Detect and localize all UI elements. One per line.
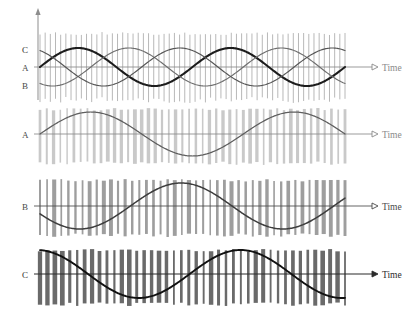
panel-combined-time-label: Time [382, 63, 402, 73]
pwm-bars-c [40, 249, 345, 306]
amplitude-axis-arrowhead [35, 8, 40, 15]
panel-b-label-b: B [22, 202, 28, 212]
panel-b-time-label: Time [382, 202, 402, 212]
panel-a-time-axis: Time [34, 130, 402, 140]
panel-combined-label-c: C [22, 45, 28, 55]
panel-c-time-label: Time [382, 270, 402, 280]
panel-a-time-label: Time [382, 130, 402, 140]
diagram-canvas: TimeCABTimeATimeBTimeC [0, 0, 418, 324]
panel-a-label-a: A [22, 130, 29, 140]
panel-c: TimeC [22, 249, 402, 306]
panel-c-label-c: C [22, 270, 28, 280]
panel-b-time-arrowhead [372, 203, 378, 209]
panel-b: TimeB [22, 179, 402, 237]
panel-combined-label-b: B [22, 81, 28, 91]
panel-a: TimeA [22, 108, 402, 165]
panel-a-time-arrowhead [372, 131, 378, 137]
panel-combined-label-a: A [22, 63, 29, 73]
panel-combined: TimeCAB [22, 32, 402, 103]
panel-c-time-arrowhead [372, 271, 378, 277]
waveform-diagram: TimeCABTimeATimeBTimeC [0, 0, 418, 324]
panel-combined-time-arrowhead [372, 64, 378, 70]
